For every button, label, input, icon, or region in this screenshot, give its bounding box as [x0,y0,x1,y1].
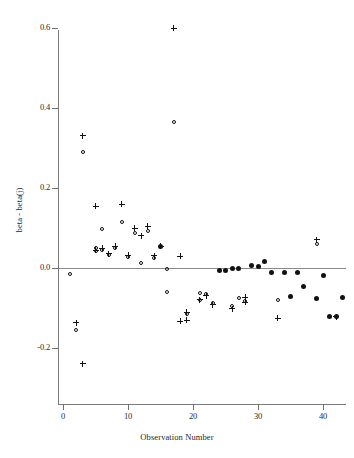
y-tick-mark [52,348,58,349]
y-tick-label: 0.4 [40,103,50,112]
data-point-open-circle [94,246,98,250]
data-point-open-circle [146,229,150,233]
data-point-open-circle [165,290,169,294]
x-tick-label: 0 [43,412,83,421]
scatter-plot-figure: -0.20.00.20.40.6 010203040 beta - beta(j… [0,0,354,458]
x-axis-title: Observation Number [0,432,354,442]
data-point-plus [177,318,183,324]
y-tick-mark [52,268,58,269]
x-tick-label: 40 [303,412,343,421]
data-point-filled-circle [327,314,332,319]
data-point-open-circle [198,291,202,295]
y-tick-label: 0.2 [40,183,50,192]
data-point-open-circle [152,256,156,260]
y-axis-line [58,30,59,405]
data-point-filled-circle [262,259,267,264]
data-point-open-circle [74,328,78,332]
data-point-open-circle [107,253,111,257]
data-point-open-circle [185,312,189,316]
data-point-open-circle [126,255,130,259]
data-point-filled-circle [334,314,339,319]
data-point-open-circle [120,220,124,224]
y-tick-label: 0.6 [40,23,50,32]
data-point-open-circle [68,272,72,276]
data-point-filled-circle [256,264,261,269]
data-point-plus [80,361,86,367]
data-point-open-circle [100,248,104,252]
data-point-filled-circle [230,266,235,271]
data-point-open-circle [133,231,137,235]
x-tick-mark [258,404,259,410]
data-point-open-circle [276,298,280,302]
data-point-open-circle [237,296,241,300]
data-point-filled-circle [269,270,274,275]
data-point-filled-circle [282,270,287,275]
data-point-filled-circle [288,294,293,299]
x-tick-mark [193,404,194,410]
data-point-open-circle [113,246,117,250]
data-point-filled-circle [158,244,163,249]
y-tick-mark [52,108,58,109]
data-point-plus [80,133,86,139]
data-point-open-circle [211,301,215,305]
data-point-plus [275,315,281,321]
y-tick-mark [52,28,58,29]
x-tick-label: 20 [173,412,213,421]
zero-reference-line [59,268,346,269]
x-tick-label: 30 [238,412,278,421]
data-point-open-circle [165,267,169,271]
x-tick-mark [128,404,129,410]
plot-area: -0.20.00.20.40.6 010203040 beta - beta(j… [0,0,354,458]
data-point-open-circle [100,227,104,231]
data-point-plus [171,25,177,31]
data-point-plus [177,253,183,259]
data-point-plus [119,201,125,207]
data-point-open-circle [243,299,247,303]
data-point-plus [138,233,144,239]
y-tick-label: 0.0 [40,263,50,272]
data-point-filled-circle [223,268,228,273]
x-tick-mark [63,404,64,410]
x-tick-label: 10 [108,412,148,421]
data-point-open-circle [81,150,85,154]
data-point-filled-circle [217,268,222,273]
y-tick-mark [52,188,58,189]
data-point-open-circle [315,242,319,246]
data-point-filled-circle [236,266,241,271]
data-point-filled-circle [295,270,300,275]
data-point-open-circle [198,298,202,302]
data-point-filled-circle [314,296,319,301]
data-point-plus [93,203,99,209]
x-axis-line [58,404,346,405]
y-tick-label: -0.2 [37,343,50,352]
data-point-filled-circle [321,273,326,278]
data-point-filled-circle [340,295,345,300]
data-point-filled-circle [301,284,306,289]
data-point-plus [73,320,79,326]
y-axis-title: beta - beta(j) [14,155,24,265]
data-point-plus [184,317,190,323]
x-tick-mark [323,404,324,410]
data-point-open-circle [172,120,176,124]
data-point-open-circle [139,261,143,265]
